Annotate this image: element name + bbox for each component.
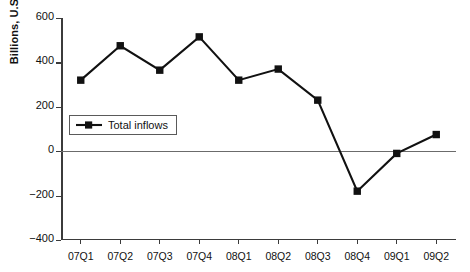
y-tick-label: −400 xyxy=(29,232,54,244)
x-tick-label: 08Q1 xyxy=(226,250,252,262)
data-point-marker xyxy=(77,76,84,83)
x-tick-label: 07Q4 xyxy=(186,250,212,262)
series-markers xyxy=(77,33,440,195)
y-tick-label: 600 xyxy=(36,10,54,22)
data-point-marker xyxy=(314,96,321,103)
data-point-marker xyxy=(275,65,282,72)
y-tick-label: −200 xyxy=(29,188,54,200)
data-point-marker xyxy=(235,76,242,83)
y-tick-label: 0 xyxy=(48,143,54,155)
y-tick-label: 200 xyxy=(36,99,54,111)
line-chart: Billions, U.S. dollars 6004002000−200−40… xyxy=(0,0,470,272)
data-point-marker xyxy=(433,131,440,138)
legend-line-square-marker-icon xyxy=(76,119,102,131)
legend-label-total-inflows: Total inflows xyxy=(108,119,168,131)
x-tick-label: 09Q1 xyxy=(384,250,410,262)
data-point-marker xyxy=(196,33,203,40)
x-tick-label: 07Q3 xyxy=(147,250,173,262)
x-tick-label: 08Q2 xyxy=(265,250,291,262)
data-point-marker xyxy=(117,42,124,49)
x-tick-label: 08Q4 xyxy=(344,250,370,262)
x-tick-label: 07Q2 xyxy=(107,250,133,262)
data-point-marker xyxy=(354,187,361,194)
y-axis-title: Billions, U.S. dollars xyxy=(4,0,24,146)
x-tick-label: 09Q2 xyxy=(423,250,449,262)
series-line xyxy=(81,37,437,191)
x-tick-label: 08Q3 xyxy=(305,250,331,262)
x-tick-label: 07Q1 xyxy=(68,250,94,262)
legend: Total inflows xyxy=(69,115,177,135)
y-tick-label: 400 xyxy=(36,54,54,66)
data-point-marker xyxy=(156,66,163,73)
y-tick-mark xyxy=(56,240,61,241)
data-point-marker xyxy=(393,150,400,157)
